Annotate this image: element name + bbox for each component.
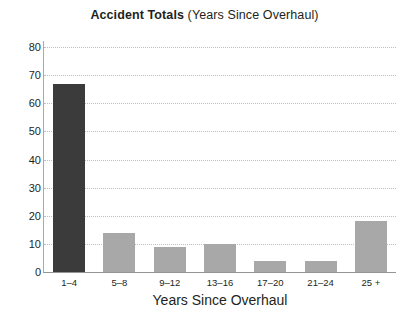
accident-totals-bar-chart: Accident Totals (Years Since Overhaul) 0… [0,0,409,328]
y-tick-label-70: 70 [11,69,41,81]
bar-5-8 [103,233,135,272]
gridline-30 [44,188,396,189]
x-tick-label-6: 25 + [361,277,380,288]
x-axis-title: Years Since Overhaul [44,292,396,308]
chart-title-subtitle: (Years Since Overhaul) [184,8,319,22]
gridline-70 [44,75,396,76]
y-tick-label-40: 40 [11,154,41,166]
plot-area [44,41,396,272]
chart-title-main: Accident Totals [90,8,184,22]
bar-17-20 [254,261,286,272]
y-tick-label-30: 30 [11,182,41,194]
bar-25 [355,221,387,272]
x-tick-label-2: 9–12 [159,277,180,288]
x-tick-label-4: 17–20 [257,277,283,288]
bar-9-12 [154,247,186,272]
y-tick-label-0: 0 [11,266,41,278]
y-tick-label-10: 10 [11,238,41,250]
x-tick-label-3: 13–16 [207,277,233,288]
bar-21-24 [305,261,337,272]
x-tick-label-1: 5–8 [111,277,127,288]
x-axis-line [43,272,396,273]
y-tick-label-80: 80 [11,41,41,53]
gridline-60 [44,103,396,104]
gridline-40 [44,160,396,161]
y-tick-label-50: 50 [11,125,41,137]
gridline-20 [44,216,396,217]
gridline-50 [44,131,396,132]
chart-title: Accident Totals (Years Since Overhaul) [0,8,409,22]
y-tick-label-60: 60 [11,97,41,109]
x-tick-label-0: 1–4 [61,277,77,288]
bar-1-4 [53,84,85,272]
bar-13-16 [204,244,236,272]
y-tick-label-20: 20 [11,210,41,222]
x-tick-label-5: 21–24 [307,277,333,288]
gridline-80 [44,47,396,48]
